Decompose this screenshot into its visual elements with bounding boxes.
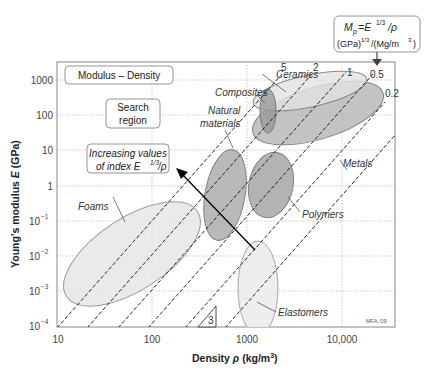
label-elastomers: Elastomers: [278, 307, 328, 318]
svg-text:10: 10: [42, 145, 54, 156]
svg-text:1000: 1000: [31, 75, 54, 86]
svg-text:Increasing values: Increasing values: [89, 148, 167, 159]
svg-text:/(Mg/m: /(Mg/m: [371, 39, 399, 49]
svg-text:1/3: 1/3: [361, 37, 370, 43]
svg-text:10: 10: [29, 286, 41, 297]
x-axis-title: Density ρ (kg/m3): [192, 352, 278, 364]
y-axis-ticks: 1000 100 10 1: [31, 75, 54, 192]
svg-text:/ρ: /ρ: [157, 161, 167, 172]
x-axis-ticks: 10 100 1000 10,000: [52, 334, 357, 345]
line-label-5: 5: [281, 62, 287, 73]
label-natural-materials-2: materials: [200, 118, 241, 129]
svg-text:10: 10: [52, 334, 64, 345]
svg-text:10,000: 10,000: [327, 334, 358, 345]
svg-text:/ρ: /ρ: [387, 21, 397, 33]
credit: MFA, 09: [366, 318, 386, 324]
svg-text:region: region: [119, 115, 147, 126]
svg-text:−3: −3: [41, 283, 49, 290]
svg-text:M: M: [344, 21, 353, 33]
svg-text:(GPa): (GPa): [337, 39, 361, 49]
svg-text:Search: Search: [117, 102, 149, 113]
svg-text:p: p: [352, 28, 357, 36]
svg-text:3: 3: [208, 315, 214, 326]
svg-text:100: 100: [144, 334, 161, 345]
svg-text:10: 10: [29, 216, 41, 227]
line-label-2: 2: [313, 62, 319, 73]
y-axis-title: Young's modulus E (GPa): [9, 140, 21, 268]
bubble-elastomers: [238, 241, 278, 335]
svg-text:10: 10: [29, 251, 41, 262]
label-foams: Foams: [78, 201, 109, 212]
line-label-1: 1: [347, 67, 353, 78]
search-region-box: Search region: [106, 99, 160, 128]
svg-text:1: 1: [47, 181, 53, 192]
svg-text:Modulus – Density: Modulus – Density: [78, 70, 160, 81]
svg-text:100: 100: [36, 110, 53, 121]
label-metals: Metals: [343, 158, 372, 169]
svg-text:1/3: 1/3: [376, 19, 385, 26]
label-natural-materials-1: Natural: [208, 105, 241, 116]
label-polymers: Polymers: [302, 209, 344, 220]
line-label-0.2: 0.2: [385, 88, 399, 99]
svg-text:1000: 1000: [236, 334, 259, 345]
increasing-index-box: Increasing values of index E 1/3 /ρ: [87, 144, 169, 173]
svg-text:10: 10: [29, 321, 41, 332]
svg-text:−4: −4: [41, 318, 49, 325]
index-formula-box: M p =E 1/3 /ρ (GPa) 1/3 /(Mg/m 3 ): [334, 16, 420, 66]
line-label-0.5: 0.5: [370, 69, 384, 80]
svg-text:−1: −1: [41, 213, 49, 220]
y-axis-ticks-exp: 10−1 10−2 10−3 10−4: [29, 213, 49, 332]
svg-text:of index E: of index E: [96, 161, 141, 172]
svg-text:−2: −2: [41, 248, 49, 255]
title-box: Modulus – Density: [65, 66, 173, 84]
label-composites: Composites: [215, 87, 268, 98]
svg-text:=E: =E: [358, 21, 372, 33]
material-selection-chart: 3 Ceramics Composites Natural materials …: [0, 0, 429, 373]
svg-text:): ): [413, 39, 416, 49]
